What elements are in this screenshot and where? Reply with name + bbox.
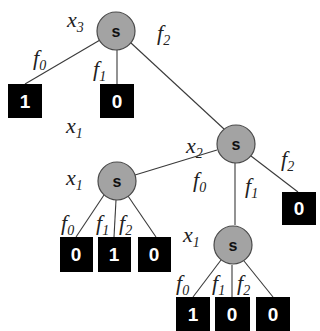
edge-label-x1b-f1: f1 — [212, 270, 225, 298]
leaf-value: 0 — [227, 304, 238, 325]
leaf-x2-f2: 0 — [282, 192, 316, 225]
decision-node-x2: s — [217, 125, 255, 163]
decision-node-root: s — [97, 12, 135, 50]
leaf-x1l-f2: 0 — [138, 237, 171, 272]
variable-label-x2: x2 — [185, 133, 203, 161]
leaf-x1b-f0: 1 — [176, 297, 210, 331]
node-symbol: s — [112, 23, 121, 40]
leaf-x1b-f1: 0 — [215, 297, 250, 331]
node-symbol: s — [113, 173, 122, 190]
leaf-value: 0 — [294, 198, 305, 219]
edge-x1l-f1 — [114, 200, 116, 237]
edge-label-x2-f1: f1 — [245, 173, 258, 201]
node-symbol: s — [229, 237, 238, 254]
decision-node-x1-bottom: s — [214, 226, 252, 264]
edge-label-x1b-f2: f2 — [237, 270, 250, 298]
edge-label-x1b-f0: f0 — [176, 270, 189, 298]
edge-label-x2-f2: f2 — [281, 146, 294, 174]
edge-label-x1l-f0: f0 — [61, 210, 74, 238]
variable-label-x1-floating: x1 — [65, 113, 83, 141]
edge-label-root-f1: f1 — [93, 56, 106, 84]
variable-label-x3: x3 — [66, 7, 84, 35]
leaf-value: 1 — [188, 304, 199, 325]
node-symbol: s — [232, 136, 241, 153]
decision-node-x1-left: s — [98, 162, 136, 200]
edge-label-root-f0: f0 — [33, 45, 46, 73]
edge-root-f2 — [131, 43, 224, 129]
edge-label-x1l-f2: f2 — [119, 210, 132, 238]
variable-label-x1-left: x1 — [65, 165, 83, 193]
leaf-root-f0: 1 — [8, 84, 42, 118]
leaf-x1l-f0: 0 — [60, 237, 93, 272]
leaf-value: 0 — [149, 244, 160, 265]
leaf-value: 0 — [71, 244, 82, 265]
leaf-value: 0 — [112, 91, 123, 112]
decision-tree-diagram: s s s s 1 0 0 0 1 0 1 0 — [0, 0, 320, 331]
variable-label-x1-bottom: x1 — [182, 222, 200, 250]
leaf-root-f1: 0 — [100, 84, 134, 118]
edge-label-x1l-f1: f1 — [96, 210, 109, 238]
edge-label-x2-f0: f0 — [193, 167, 206, 195]
leaf-value: 1 — [20, 91, 31, 112]
leaf-value: 1 — [109, 244, 120, 265]
leaf-x1l-f1: 1 — [98, 237, 131, 272]
edge-label-root-f2: f2 — [157, 20, 170, 48]
leaf-x1b-f2: 0 — [256, 297, 290, 331]
edge-x2-f0 — [135, 150, 217, 175]
edge-x1l-f2 — [128, 196, 156, 237]
leaf-value: 0 — [268, 304, 279, 325]
